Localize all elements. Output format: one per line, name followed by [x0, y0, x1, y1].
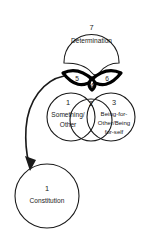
circle-right-number: 3 [112, 98, 116, 107]
curved-arrow-to-constitution [25, 76, 64, 171]
lens-center-number: 4 [90, 82, 94, 89]
circle-left-number: 1 [66, 98, 70, 107]
bottom-node-number: 1 [45, 184, 49, 193]
circle-right-label-line1: Being-for- [101, 110, 128, 117]
lens-right-number: 6 [105, 75, 109, 82]
curved-arrow-path [26, 76, 64, 164]
bottom-node-constitution: 1 Constitution [15, 164, 79, 228]
circle-left-label-line2: Other [60, 121, 77, 128]
diagram-canvas: 7 Determination 5 6 4 1 Something/ Other [0, 0, 155, 244]
circle-right-label-line2: Other/Being [98, 119, 131, 126]
top-node-label: Determination [71, 37, 112, 44]
lens-left-number: 5 [75, 75, 79, 82]
top-node-number: 7 [89, 23, 93, 32]
bottom-node-label: Constitution [30, 197, 65, 204]
diagram-figure: 7 Determination 5 6 4 1 Something/ Other [0, 0, 155, 244]
circle-right-label-line3: for-self [105, 128, 124, 135]
top-node-determination: 7 Determination [64, 23, 119, 75]
circle-middle-number: 2 [89, 99, 93, 108]
circle-left-label-line1: Something/ [51, 111, 85, 119]
